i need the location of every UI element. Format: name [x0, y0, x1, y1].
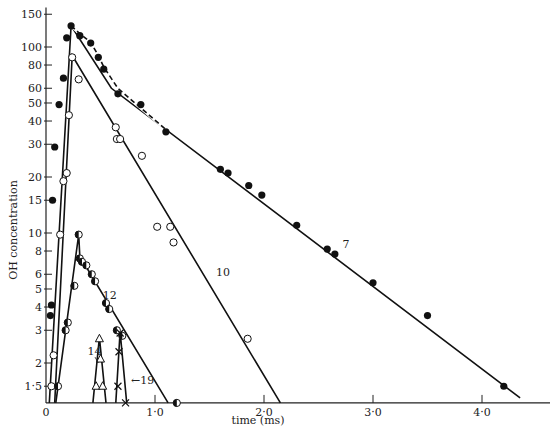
filled-circle-marker	[47, 312, 54, 319]
x-tick-label: 3·0	[364, 406, 382, 419]
y-tick-label: 20	[28, 171, 42, 184]
y-tick-label: 8	[35, 245, 42, 258]
y-tick-label: 100	[21, 41, 42, 54]
filled-circle-marker	[369, 279, 376, 286]
open-circle-marker	[170, 239, 177, 246]
filled-circle-marker	[48, 301, 55, 308]
open-triangle-marker	[95, 334, 103, 342]
open-circle-marker	[75, 76, 82, 83]
open-circle-marker	[117, 135, 124, 142]
filled-circle-marker	[114, 90, 121, 97]
filled-circle-marker	[67, 22, 74, 29]
open-circle-marker	[65, 112, 72, 119]
filled-circle-marker	[258, 191, 265, 198]
filled-circle-marker	[137, 101, 144, 108]
open-circle-marker	[138, 152, 145, 159]
filled-circle-marker	[245, 182, 252, 189]
open-circle-marker	[112, 124, 119, 131]
y-tick-label: 5	[35, 283, 42, 296]
filled-circle-marker	[331, 251, 338, 258]
curve-label-7: 7	[342, 238, 349, 251]
x-tick-label: 4·0	[473, 406, 491, 419]
filled-circle-marker	[49, 197, 56, 204]
y-tick-label: 30	[28, 138, 42, 151]
oh-concentration-chart: 1·5234568101520304050608010015001·02·03·…	[0, 0, 559, 441]
y-tick-label: 15	[28, 194, 42, 207]
filled-circle-marker	[217, 166, 224, 173]
filled-circle-marker	[76, 32, 83, 39]
y-tick-label: 6	[35, 268, 42, 281]
filled-circle-marker	[162, 128, 169, 135]
open-circle-marker	[154, 223, 161, 230]
cross-marker	[114, 383, 121, 390]
y-tick-label: 80	[28, 59, 42, 72]
curve-label-14: 14	[87, 345, 101, 358]
y-tick-label: 10	[28, 227, 42, 240]
open-circle-marker	[57, 231, 64, 238]
filled-circle-marker	[55, 101, 62, 108]
open-circle-marker	[50, 352, 57, 359]
filled-circle-marker	[224, 169, 231, 176]
curve-label-19: ←19	[131, 374, 154, 387]
curve-label-10: 10	[216, 266, 230, 279]
filled-circle-marker	[95, 54, 102, 61]
filled-circle-marker	[60, 75, 67, 82]
open-circle-marker	[69, 54, 76, 61]
filled-circle-marker	[51, 143, 58, 150]
filled-circle-marker	[324, 245, 331, 252]
y-tick-label: 2	[35, 357, 42, 370]
fit-line-19	[116, 332, 127, 403]
open-circle-marker	[60, 178, 67, 185]
x-axis-title: time (ms)	[231, 414, 284, 427]
y-axis-title: OH concentration	[7, 180, 20, 280]
y-tick-label: 50	[28, 97, 42, 110]
filled-circle-marker	[500, 383, 507, 390]
y-tick-label: 60	[28, 82, 42, 95]
filled-circle-marker	[100, 66, 107, 73]
fit-lines	[49, 26, 520, 403]
open-circle-marker	[244, 335, 251, 342]
y-tick-label: 40	[28, 115, 42, 128]
x-tick-label: 1·0	[146, 406, 164, 419]
y-tick-label: 3	[35, 324, 42, 337]
filled-circle-marker	[63, 34, 70, 41]
y-tick-label: 150	[21, 8, 42, 21]
filled-circle-marker	[87, 39, 94, 46]
filled-circle-marker	[424, 312, 431, 319]
open-circle-marker	[167, 223, 174, 230]
y-tick-label: 4	[35, 301, 42, 314]
open-triangle-marker	[99, 382, 107, 390]
y-tick-label: 1·5	[25, 380, 43, 393]
x-tick-label: 0	[43, 406, 50, 419]
curve-labels: 7101214←19	[87, 238, 349, 387]
open-circle-marker	[63, 169, 70, 176]
filled-circle-marker	[293, 222, 300, 229]
curve-label-12: 12	[103, 289, 117, 302]
